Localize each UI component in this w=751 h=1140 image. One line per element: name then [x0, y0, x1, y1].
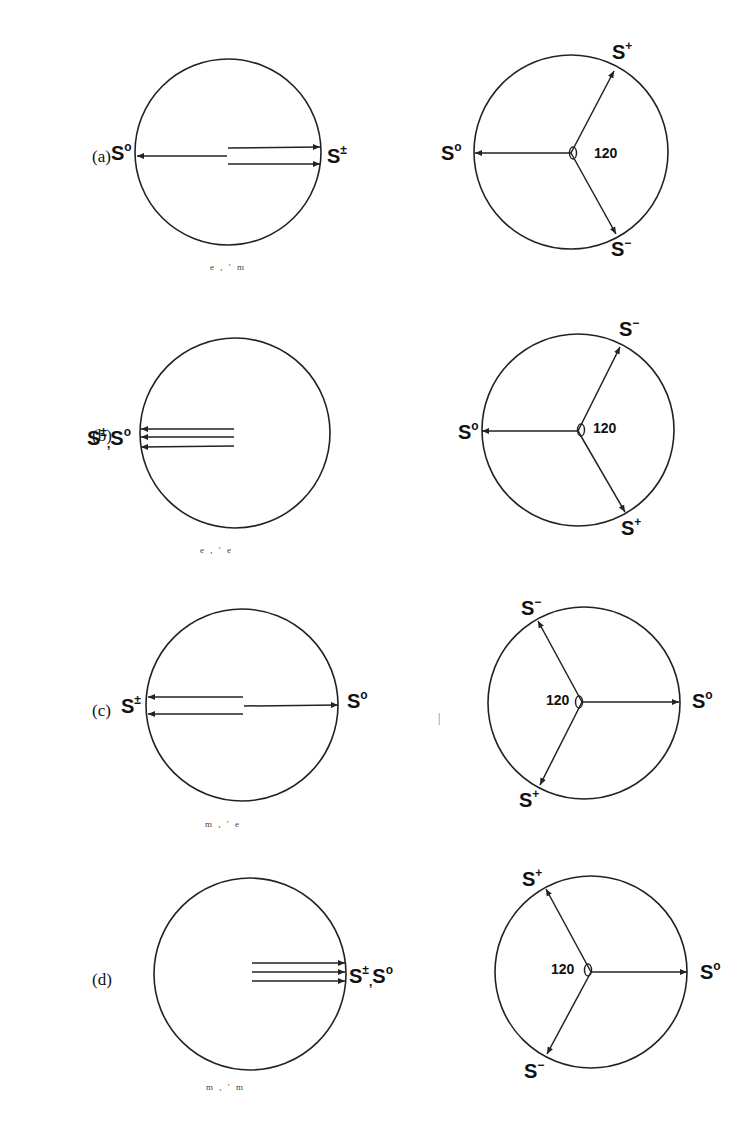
- arrow-splus: [546, 889, 591, 972]
- panel-a-left-diagram: So S± e , ′ m: [111, 59, 347, 272]
- stray-mark: |: [438, 711, 440, 725]
- panel-label-c: (c): [92, 701, 111, 720]
- panel-label-d: (d): [92, 970, 112, 989]
- angle-label: 120: [594, 145, 618, 161]
- arrow-s0: [244, 705, 338, 706]
- arrow-splus: [578, 431, 625, 512]
- arrow-spm-1: [228, 147, 320, 148]
- panel-d-right-diagram: 120 So S+ S−: [495, 866, 721, 1082]
- arrow-splus: [540, 702, 582, 785]
- angle-label: 120: [551, 961, 575, 977]
- label-s0: So: [347, 688, 368, 712]
- panel-b-right-diagram: 120 So S− S+: [458, 316, 674, 539]
- panel-d: (d) S±,So m , ′ m 120 So S+ S−: [92, 866, 721, 1092]
- angle-label: 120: [546, 692, 570, 708]
- caption-b: e , ′ e: [200, 545, 233, 555]
- label-splus: S+: [612, 39, 632, 63]
- arrow-sminus: [538, 621, 582, 702]
- spin-configuration-figure: (a) So S± e , ′ m 120 So S+ S− (b): [0, 0, 751, 1140]
- panel-c-right-diagram: 120 So S− S+: [488, 595, 713, 811]
- label-s0: So: [700, 959, 721, 983]
- angle-label: 120: [593, 420, 617, 436]
- panel-c: (c) S± So m , ′ e | 120 So S− S+: [92, 595, 713, 829]
- label-splus: S+: [519, 787, 539, 811]
- arrow-sminus: [571, 153, 616, 234]
- caption-a: e , ′ m: [210, 262, 246, 272]
- label-splus: S+: [522, 866, 542, 890]
- unit-circle: [135, 59, 321, 245]
- panel-a: (a) So S± e , ′ m 120 So S+ S−: [92, 39, 668, 272]
- arrow-sminus: [578, 347, 620, 431]
- label-spm-s0-combined: S±,So: [349, 963, 393, 989]
- panel-d-left-diagram: S±,So m , ′ m: [154, 878, 393, 1092]
- label-sminus: S−: [521, 595, 541, 619]
- label-sminus: S−: [611, 236, 631, 260]
- label-sminus: S−: [524, 1058, 544, 1082]
- panel-b: (b) S±,So e , ′ e 120 So S− S+: [87, 316, 674, 555]
- label-spm: S±: [327, 143, 347, 167]
- arrow-sminus: [547, 972, 591, 1054]
- label-s0: So: [458, 419, 479, 443]
- label-s0: So: [441, 140, 462, 164]
- label-sminus: S−: [619, 316, 639, 340]
- label-splus: S+: [621, 515, 641, 539]
- unit-circle: [488, 607, 680, 799]
- unit-circle: [140, 338, 330, 528]
- panel-a-right-diagram: 120 So S+ S−: [441, 39, 668, 260]
- arrow-splus: [571, 71, 614, 153]
- caption-c: m , ′ e: [205, 819, 241, 829]
- label-spm: S±: [121, 693, 141, 717]
- label-s0: So: [111, 140, 132, 164]
- panel-label-a: (a): [92, 147, 111, 166]
- caption-d: m , ′ m: [206, 1082, 245, 1092]
- panel-c-left-diagram: S± So m , ′ e: [121, 609, 368, 829]
- label-s0: So: [692, 688, 713, 712]
- unit-circle: [154, 878, 346, 1070]
- panel-b-left-diagram: S±,So e , ′ e: [87, 338, 330, 555]
- arrow-3: [141, 446, 234, 447]
